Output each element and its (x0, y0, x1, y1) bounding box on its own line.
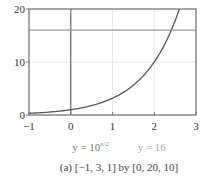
y-tick-label-1: 10 (14, 56, 26, 68)
x-tick-label-3: 2 (152, 120, 158, 132)
caption-text: (a) [−1, 3, 1] by [0, 20, 10] (60, 161, 178, 173)
x-tick-label-4: 3 (193, 120, 199, 132)
series-line-exponential (29, 9, 179, 113)
legend: y = 10x/2 y = 16 (0, 141, 210, 153)
legend-entry-exponential-base: y = 10 (72, 141, 100, 153)
legend-entry-constant: y = 16 (138, 141, 166, 153)
legend-entry-exponential: y = 10x/2 (72, 141, 109, 153)
x-tick-label-2: 1 (110, 120, 116, 132)
legend-entry-exponential-exponent: x/2 (100, 140, 109, 148)
chart: −1012301020 (0, 0, 210, 185)
y-tick-label-2: 20 (14, 3, 26, 15)
chart-caption: (a) [−1, 3, 1] by [0, 20, 10] (0, 161, 210, 173)
y-tick-label-0: 0 (20, 109, 26, 121)
x-tick-label-0: −1 (23, 120, 35, 132)
grid (29, 9, 196, 115)
x-tick-label-1: 0 (68, 120, 74, 132)
